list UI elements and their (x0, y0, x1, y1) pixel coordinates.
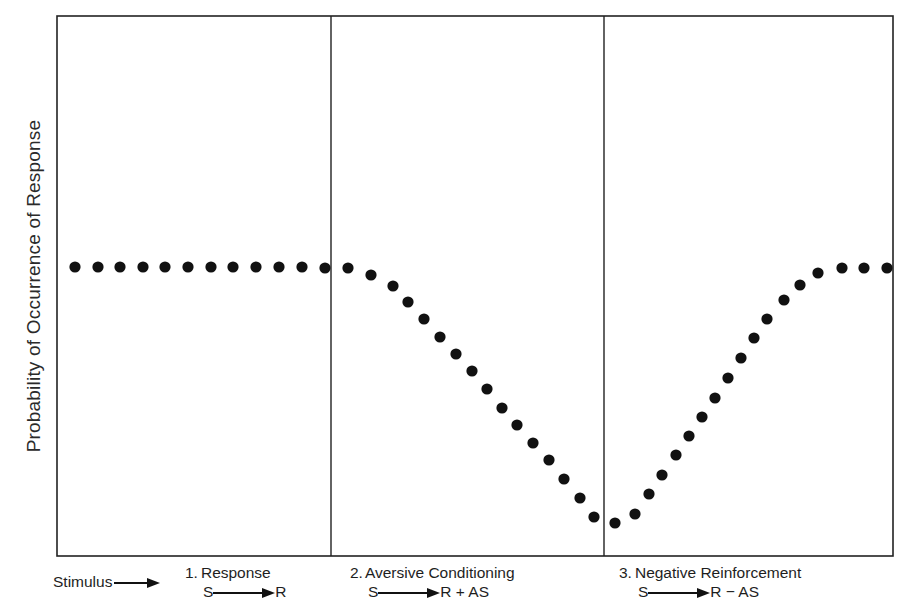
arrow-icon (648, 588, 710, 598)
panel-3-title-text: Negative Reinforcement (635, 564, 801, 581)
panel-1-number: 1. (185, 564, 198, 581)
panel-2-formula: SR + AS (368, 583, 489, 601)
data-point (656, 469, 667, 480)
data-point (574, 492, 585, 503)
data-point (182, 261, 193, 272)
stimulus-label: Stimulus (53, 573, 112, 590)
panel-2-title: 2.Aversive Conditioning (350, 564, 515, 582)
data-point (609, 517, 620, 528)
panel-3-formula-right: R − AS (710, 583, 759, 600)
data-point (812, 267, 823, 278)
data-point (434, 331, 445, 342)
data-point (527, 437, 538, 448)
data-point (683, 430, 694, 441)
data-point (709, 392, 720, 403)
data-point (696, 411, 707, 422)
data-point (794, 279, 805, 290)
data-point (643, 488, 654, 499)
panel-2-formula-right: R + AS (440, 583, 489, 600)
panel-2-number: 2. (350, 564, 363, 581)
panel-1-title-text: Response (201, 564, 271, 581)
data-point (450, 348, 461, 359)
arrow-icon (378, 588, 440, 598)
panel-1-formula: SR (203, 583, 287, 601)
data-point (342, 262, 353, 273)
panel-3-title: 3.Negative Reinforcement (619, 564, 801, 582)
data-point (159, 261, 170, 272)
data-point (69, 261, 80, 272)
data-point (836, 262, 847, 273)
data-point (296, 261, 307, 272)
plot-area (0, 0, 905, 615)
data-point (761, 313, 772, 324)
data-point (511, 419, 522, 430)
data-point (387, 280, 398, 291)
data-point (402, 296, 413, 307)
data-point (558, 473, 569, 484)
data-point (319, 262, 330, 273)
panel-2-title-text: Aversive Conditioning (365, 564, 515, 581)
panel-3-number: 3. (619, 564, 632, 581)
data-point (722, 372, 733, 383)
panel-1-formula-left: S (203, 583, 213, 600)
data-point (858, 262, 869, 273)
data-point (481, 383, 492, 394)
data-point (543, 454, 554, 465)
data-point (778, 294, 789, 305)
panel-1-title: 1.Response (185, 564, 271, 582)
arrow-icon (114, 578, 160, 588)
data-point (496, 402, 507, 413)
figure: Probability of Occurrence of Response St… (0, 0, 905, 615)
data-point (466, 365, 477, 376)
panel-2-formula-left: S (368, 583, 378, 600)
stimulus-label-group: Stimulus (53, 573, 160, 591)
data-point (114, 261, 125, 272)
data-point (670, 449, 681, 460)
panel-1-formula-right: R (275, 583, 286, 600)
data-point (748, 332, 759, 343)
arrow-icon (213, 588, 275, 598)
data-point (273, 261, 284, 272)
data-point (588, 511, 599, 522)
panel-3-formula: SR − AS (638, 583, 759, 601)
panel-3-formula-left: S (638, 583, 648, 600)
data-point (205, 261, 216, 272)
data-point (92, 261, 103, 272)
data-point (629, 508, 640, 519)
plot-frame (57, 16, 893, 556)
data-point (227, 261, 238, 272)
data-point (137, 261, 148, 272)
data-point (365, 269, 376, 280)
data-point (735, 352, 746, 363)
data-point (881, 262, 892, 273)
data-point (418, 313, 429, 324)
data-points (69, 261, 892, 528)
data-point (250, 261, 261, 272)
